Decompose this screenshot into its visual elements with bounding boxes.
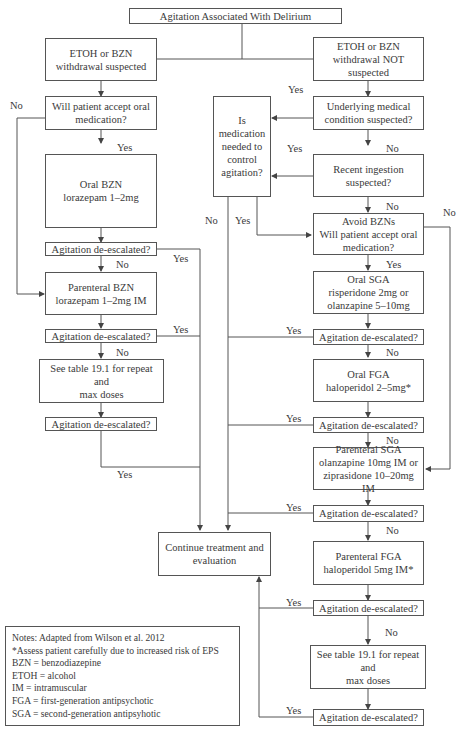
notes-line: Notes: Adapted from Wilson et al. 2012 <box>12 632 233 645</box>
right-deescalated-4-box: Agitation de-escalated? <box>313 600 424 616</box>
label-yes: Yes <box>288 84 303 96</box>
notes-box: Notes: Adapted from Wilson et al. 2012 *… <box>5 626 240 726</box>
left-deescalated-2-box: Agitation de-escalated? <box>45 329 157 343</box>
left-deescalated-1-box: Agitation de-escalated? <box>45 242 157 256</box>
label-yes: Yes <box>286 597 301 609</box>
parenteral-bzn-box: Parenteral BZN lorazepam 1–2mg IM <box>45 272 157 315</box>
right-deescalated-1-box: Agitation de-escalated? <box>313 329 424 345</box>
continue-treatment-box: Continue treatment and evaluation <box>158 532 271 576</box>
notes-line: IM = intramuscular <box>12 682 233 695</box>
label-yes: Yes <box>286 413 301 425</box>
label-yes: Yes <box>286 502 301 514</box>
label-no: No <box>10 100 23 112</box>
notes-line: BZN = benzodiazepine <box>12 657 233 670</box>
medication-needed-box: Is medication needed to control agitatio… <box>213 96 271 197</box>
underlying-condition-box: Underlying medical condition suspected? <box>313 96 424 130</box>
label-no: No <box>443 207 456 219</box>
label-yes: Yes <box>287 143 302 155</box>
oral-sga-box: Oral SGA risperidone 2mg or olanzapine 5… <box>313 271 424 314</box>
avoid-bzn-accept-oral-box: Avoid BZNs Will patient accept oral medi… <box>313 213 424 255</box>
parenteral-fga-box: Parenteral FGA haloperidol 5mg IM* <box>313 541 424 585</box>
label-no: No <box>386 435 399 447</box>
label-no: No <box>205 215 218 227</box>
label-yes: Yes <box>173 253 188 265</box>
label-yes: Yes <box>286 705 301 717</box>
label-yes: Yes <box>173 324 188 336</box>
label-no: No <box>386 143 399 155</box>
left-see-table-box: See table 19.1 for repeat and max doses <box>39 359 164 403</box>
label-no: No <box>385 627 398 639</box>
notes-line: SGA = second-generation antipsyhotic <box>12 708 233 721</box>
left-deescalated-3-box: Agitation de-escalated? <box>45 417 157 431</box>
label-no: No <box>386 201 399 213</box>
title-box: Agitation Associated With Delirium <box>129 8 342 24</box>
label-yes: Yes <box>286 325 301 337</box>
withdrawal-suspected-box: ETOH or BZN withdrawal suspected <box>45 38 157 81</box>
notes-line: FGA = first-generation antipsychotic <box>12 695 233 708</box>
right-deescalated-2-box: Agitation de-escalated? <box>313 417 424 433</box>
recent-ingestion-box: Recent ingestion suspected? <box>313 154 424 197</box>
label-no: No <box>116 347 129 359</box>
label-no: No <box>386 347 399 359</box>
right-see-table-box: See table 19.1 for repeat and max doses <box>310 645 426 689</box>
oral-bzn-box: Oral BZN lorazepam 1–2mg <box>45 154 157 228</box>
right-deescalated-5-box: Agitation de-escalated? <box>313 709 424 726</box>
withdrawal-not-suspected-box: ETOH or BZN withdrawal NOT suspected <box>313 37 424 81</box>
label-yes: Yes <box>386 259 401 271</box>
label-yes: Yes <box>117 469 132 481</box>
left-accept-oral-box: Will patient accept oral medication? <box>45 96 157 130</box>
oral-fga-box: Oral FGA haloperidol 2–5mg* <box>313 359 424 402</box>
label-yes: Yes <box>117 142 132 154</box>
notes-line: ETOH = alcohol <box>12 670 233 683</box>
right-deescalated-3-box: Agitation de-escalated? <box>313 505 424 522</box>
label-no: No <box>116 259 129 271</box>
label-no: No <box>386 525 399 537</box>
notes-line: *Assess patient carefully due to increas… <box>12 645 233 658</box>
parenteral-sga-box: Parenteral SGA olanzapine 10mg IM or zip… <box>313 447 424 490</box>
label-yes: Yes <box>235 215 250 227</box>
